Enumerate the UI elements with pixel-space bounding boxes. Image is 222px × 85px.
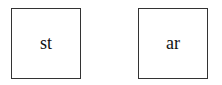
box-label: ar xyxy=(166,33,180,54)
box-label: st xyxy=(40,33,52,54)
box-ar: ar xyxy=(138,8,208,79)
box-st: st xyxy=(11,8,81,79)
